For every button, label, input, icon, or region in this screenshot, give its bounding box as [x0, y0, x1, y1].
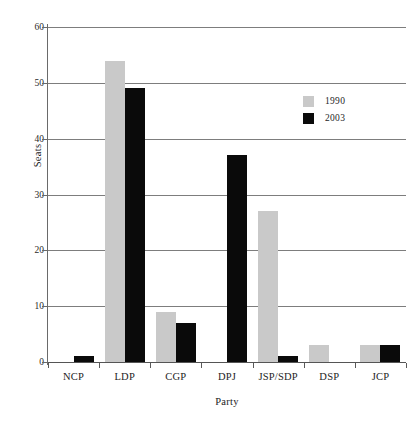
bar-cgp-1990: [156, 312, 176, 362]
plot-area: [48, 27, 406, 362]
x-tick-mark: [150, 363, 151, 368]
y-tick-label: 60: [0, 22, 44, 32]
bar-dpj-2003: [227, 155, 247, 362]
bar-ldp-2003: [125, 88, 145, 362]
y-axis-title: Seats: [32, 121, 43, 191]
legend-swatch-1990: [303, 96, 314, 107]
gridline: [48, 139, 406, 140]
gridline: [48, 27, 406, 28]
x-tick-mark: [201, 363, 202, 368]
bar-ldp-1990: [105, 61, 125, 363]
gridline: [48, 83, 406, 84]
x-tick-label-dpj: DPJ: [218, 371, 236, 382]
x-tick-mark: [406, 363, 407, 368]
x-tick-mark: [253, 363, 254, 368]
y-tick-label: 40: [0, 134, 44, 144]
y-tick-label: 30: [0, 190, 44, 200]
bar-jsp-sdp-1990: [258, 211, 278, 362]
y-tick-mark: [42, 27, 48, 28]
y-tick-label: 50: [0, 78, 44, 88]
x-tick-mark: [304, 363, 305, 368]
x-tick-mark: [99, 363, 100, 368]
y-tick-mark: [42, 83, 48, 84]
y-tick-label: 0: [0, 357, 44, 367]
y-tick-mark: [42, 139, 48, 140]
legend-item-1990: 1990: [303, 93, 345, 110]
x-tick-label-ncp: NCP: [63, 371, 84, 382]
bar-dsp-1990: [309, 345, 329, 362]
y-tick-label: 10: [0, 301, 44, 311]
x-tick-label-dsp: DSP: [319, 371, 339, 382]
bar-cgp-2003: [176, 323, 196, 362]
x-tick-mark: [48, 363, 49, 368]
bar-jcp-2003: [380, 345, 400, 362]
x-tick-label-jcp: JCP: [372, 371, 390, 382]
y-tick-mark: [42, 306, 48, 307]
legend-swatch-2003: [303, 113, 314, 124]
x-axis-title: Party: [48, 396, 406, 407]
x-axis-line: [47, 362, 406, 363]
x-tick-label-cgp: CGP: [165, 371, 186, 382]
legend-label-1990: 1990: [325, 97, 345, 107]
bar-jcp-1990: [360, 345, 380, 362]
y-tick-mark: [42, 195, 48, 196]
y-tick-mark: [42, 250, 48, 251]
x-tick-label-ldp: LDP: [114, 371, 134, 382]
x-tick-label-jsp-sdp: JSP/SDP: [258, 371, 297, 382]
legend-item-2003: 2003: [303, 110, 345, 127]
x-tick-mark: [355, 363, 356, 368]
legend-label-2003: 2003: [325, 114, 345, 124]
bar-chart: Seats 1990 2003 Party 0102030405060NCPLD…: [0, 0, 419, 421]
legend: 1990 2003: [303, 93, 345, 127]
y-tick-label: 20: [0, 245, 44, 255]
